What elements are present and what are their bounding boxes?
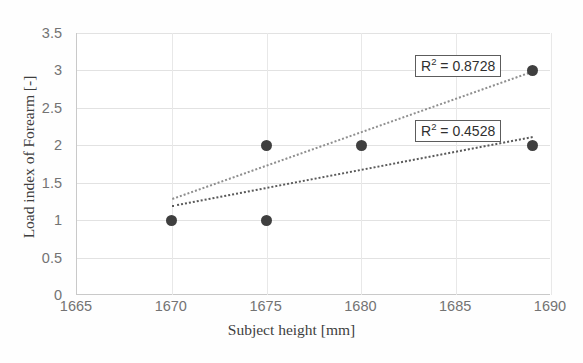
gridline-horizontal [77,108,550,109]
y-tick-label: 0.5 [42,250,62,266]
chart-figure: 00.511.522.533.5 16651670167516801685169… [0,0,583,363]
r2-upper-prefix: R [421,58,431,74]
r2-upper-value: = 0.8728 [436,58,495,74]
y-tick-label: 2 [54,137,62,153]
r2-lower-value: = 0.4528 [436,123,495,139]
data-point [527,140,538,151]
data-point [261,140,272,151]
data-point [261,215,272,226]
x-tick-label: 1675 [249,298,281,314]
x-tick-label: 1665 [60,298,92,314]
gridline-vertical [361,33,362,295]
gridline-vertical [551,33,552,295]
gridline-horizontal [77,258,550,259]
gridline-horizontal [77,33,550,34]
x-tick-label: 1670 [155,298,187,314]
r2-lower-prefix: R [421,123,431,139]
caption-strip [0,348,583,363]
x-tick-label: 1680 [344,298,376,314]
data-point [356,140,367,151]
r2-label-lower: R2 = 0.4528 [415,120,501,142]
y-tick-label: 3.5 [42,25,62,41]
data-point [527,65,538,76]
y-tick-label: 1.5 [42,175,62,191]
x-tick-label: 1685 [439,298,471,314]
y-axis-title: Load index of Forearm [-] [20,42,38,272]
gridline-horizontal [77,220,550,221]
y-tick-label: 3 [54,62,62,78]
x-axis-tick-labels: 166516701675168016851690 [0,298,583,322]
data-point [166,215,177,226]
x-axis-line [77,294,550,295]
gridline-vertical [172,33,173,295]
x-axis-title: Subject height [mm] [0,321,583,339]
x-tick-label: 1690 [534,298,566,314]
y-tick-label: 2.5 [42,100,62,116]
gridline-horizontal [77,183,550,184]
y-tick-label: 1 [54,212,62,228]
lower-trendline [172,136,533,207]
r2-label-upper: R2 = 0.8728 [415,55,501,77]
